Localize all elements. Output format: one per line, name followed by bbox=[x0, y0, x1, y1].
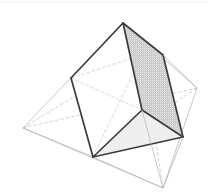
octahedron-prism-figure: Inscribed triangular prism in an octahed… bbox=[0, 0, 210, 195]
figure-container: Inscribed triangular prism in an octahed… bbox=[0, 0, 210, 195]
